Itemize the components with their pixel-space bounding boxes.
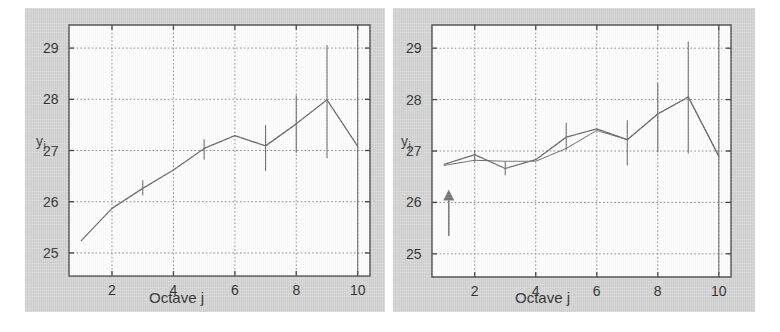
- xtick-label-10: 10: [350, 283, 366, 297]
- xtick-label-2: 2: [108, 283, 116, 297]
- ytick-label-28: 28: [406, 93, 422, 107]
- xtick-label-4: 4: [170, 283, 178, 297]
- plot-right-canvas: [393, 8, 755, 312]
- xtick-label-4: 4: [532, 284, 540, 298]
- ytick-label-29: 29: [406, 41, 422, 55]
- xtick-label-6: 6: [593, 284, 601, 298]
- ytick-label-29: 29: [43, 41, 59, 55]
- ytick-label-27: 27: [43, 144, 59, 158]
- x-axis-label-right: Octave j: [515, 290, 570, 305]
- figure-root: yj Octave j 2526272829246810 yj Octave j…: [0, 0, 780, 332]
- xtick-label-2: 2: [471, 284, 479, 298]
- ytick-label-26: 26: [406, 195, 422, 209]
- ytick-label-26: 26: [43, 195, 59, 209]
- ytick-label-28: 28: [43, 92, 59, 106]
- ytick-label-27: 27: [406, 144, 422, 158]
- panel-left: yj Octave j 2526272829246810: [25, 8, 385, 312]
- xtick-label-8: 8: [654, 284, 662, 298]
- ytick-label-25: 25: [43, 246, 59, 260]
- plot-left-canvas: [25, 8, 385, 312]
- xtick-label-6: 6: [231, 283, 239, 297]
- ytick-label-25: 25: [406, 247, 422, 261]
- panel-right: yj Octave j 2526272829246810: [393, 8, 755, 312]
- xtick-label-8: 8: [292, 283, 300, 297]
- xtick-label-10: 10: [711, 284, 727, 298]
- y-axis-label-left-text: y: [36, 133, 43, 149]
